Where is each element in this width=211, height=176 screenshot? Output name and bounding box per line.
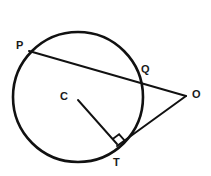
- point-label-p: P: [16, 40, 23, 51]
- point-label-t: T: [113, 157, 120, 168]
- point-label-o: O: [192, 89, 201, 100]
- tangent-line-to: [117, 96, 186, 146]
- secant-line-po: [29, 51, 186, 96]
- geometry-canvas: [0, 0, 211, 176]
- point-label-q: Q: [141, 64, 150, 75]
- point-label-c: C: [60, 91, 68, 102]
- right-angle-at-t: [113, 134, 125, 140]
- radius-line-ct: [78, 100, 117, 144]
- geometry-diagram: P Q O C T: [0, 0, 211, 176]
